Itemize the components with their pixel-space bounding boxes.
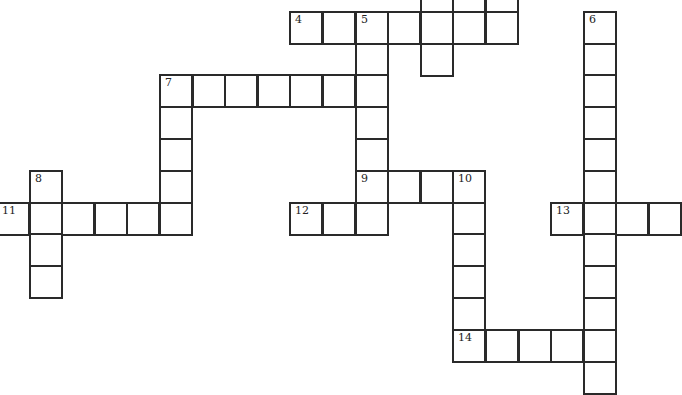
crossword-cell-11[interactable]: 11 bbox=[0, 202, 30, 236]
crossword-cell[interactable] bbox=[29, 202, 63, 236]
crossword-cell-8[interactable]: 8 bbox=[29, 170, 63, 204]
crossword-cell[interactable] bbox=[126, 202, 160, 236]
clue-number: 4 bbox=[295, 14, 302, 25]
crossword-cell-7[interactable]: 7 bbox=[159, 74, 193, 108]
clue-number: 5 bbox=[361, 14, 368, 25]
crossword-cell[interactable] bbox=[420, 43, 454, 77]
crossword-cell[interactable] bbox=[159, 170, 193, 204]
crossword-cell[interactable] bbox=[355, 43, 389, 77]
crossword-cell-6[interactable]: 6 bbox=[583, 11, 617, 45]
crossword-cell[interactable] bbox=[420, 11, 454, 45]
clue-number: 6 bbox=[589, 14, 596, 25]
clue-number: 10 bbox=[458, 173, 472, 184]
crossword-cell[interactable] bbox=[355, 74, 389, 108]
crossword-cell[interactable] bbox=[583, 138, 617, 172]
crossword-cell[interactable] bbox=[518, 329, 552, 363]
crossword-cell[interactable] bbox=[452, 233, 486, 267]
crossword-cell-14[interactable]: 14 bbox=[452, 329, 486, 363]
crossword-cell-12[interactable]: 12 bbox=[289, 202, 323, 236]
crossword-cell[interactable] bbox=[485, 11, 519, 45]
crossword-cell-4[interactable]: 4 bbox=[289, 11, 323, 45]
crossword-cell[interactable] bbox=[583, 43, 617, 77]
crossword-cell[interactable] bbox=[648, 202, 682, 236]
crossword-cell[interactable] bbox=[615, 202, 649, 236]
crossword-cell[interactable] bbox=[192, 74, 226, 108]
crossword-cell[interactable] bbox=[322, 202, 356, 236]
crossword-cell[interactable] bbox=[322, 74, 356, 108]
crossword-cell[interactable] bbox=[420, 170, 454, 204]
crossword-cell[interactable] bbox=[583, 106, 617, 140]
crossword-cell[interactable] bbox=[355, 138, 389, 172]
crossword-cell-10[interactable]: 10 bbox=[452, 170, 486, 204]
crossword-cell[interactable] bbox=[583, 233, 617, 267]
crossword-cell[interactable] bbox=[29, 265, 63, 299]
crossword-cell[interactable] bbox=[583, 170, 617, 204]
clue-number: 11 bbox=[2, 205, 16, 216]
crossword-cell[interactable] bbox=[452, 265, 486, 299]
crossword-cell[interactable] bbox=[583, 74, 617, 108]
crossword-cell-9[interactable]: 9 bbox=[355, 170, 389, 204]
crossword-cell[interactable] bbox=[583, 265, 617, 299]
crossword-cell[interactable] bbox=[224, 74, 258, 108]
crossword-cell[interactable] bbox=[485, 329, 519, 363]
crossword-cell[interactable] bbox=[550, 329, 584, 363]
crossword-cell[interactable] bbox=[452, 202, 486, 236]
crossword-cell[interactable] bbox=[583, 202, 617, 236]
clue-number: 12 bbox=[295, 205, 309, 216]
clue-number: 14 bbox=[458, 332, 472, 343]
crossword-cell[interactable] bbox=[94, 202, 128, 236]
crossword-cell[interactable] bbox=[322, 11, 356, 45]
clue-number: 7 bbox=[165, 77, 172, 88]
crossword-cell[interactable] bbox=[257, 74, 291, 108]
crossword-cell[interactable] bbox=[387, 11, 421, 45]
crossword-cell[interactable] bbox=[355, 106, 389, 140]
crossword-cell[interactable] bbox=[29, 233, 63, 267]
crossword-cell[interactable] bbox=[355, 202, 389, 236]
crossword-cell[interactable] bbox=[387, 170, 421, 204]
clue-number: 13 bbox=[556, 205, 570, 216]
crossword-cell[interactable] bbox=[159, 106, 193, 140]
crossword-cell[interactable] bbox=[452, 11, 486, 45]
crossword-cell[interactable] bbox=[452, 297, 486, 331]
crossword-cell[interactable] bbox=[583, 297, 617, 331]
crossword-cell-13[interactable]: 13 bbox=[550, 202, 584, 236]
clue-number: 9 bbox=[361, 173, 368, 184]
crossword-cell-5[interactable]: 5 bbox=[355, 11, 389, 45]
crossword-cell[interactable] bbox=[159, 202, 193, 236]
crossword-cell[interactable] bbox=[289, 74, 323, 108]
crossword-cell[interactable] bbox=[61, 202, 95, 236]
crossword-cell[interactable] bbox=[583, 329, 617, 363]
crossword-cell[interactable] bbox=[159, 138, 193, 172]
clue-number: 8 bbox=[35, 173, 42, 184]
crossword-cell[interactable] bbox=[583, 361, 617, 395]
